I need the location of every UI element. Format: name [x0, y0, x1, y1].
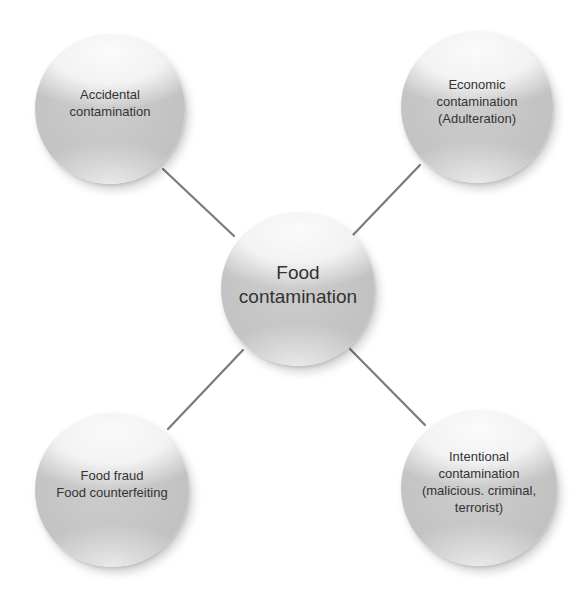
node-label: Economic contamination (Adulteration) — [437, 76, 518, 127]
connector-fraud — [168, 350, 243, 429]
node-food-contamination-center: Food contamination — [221, 212, 375, 366]
connector-intentional — [350, 349, 425, 425]
node-food-fraud: Food fraud Food counterfeiting — [35, 413, 189, 567]
node-intentional-contamination: Intentional contamination (malicious. cr… — [401, 410, 557, 566]
node-label: Accidental contamination — [70, 86, 151, 120]
diagram-canvas: Accidental contamination Economic contam… — [0, 0, 588, 601]
connector-economic — [353, 165, 420, 235]
node-label: Intentional contamination (malicious. cr… — [422, 448, 536, 516]
node-label: Food fraud Food counterfeiting — [56, 467, 167, 501]
center-label: Food contamination — [239, 261, 357, 309]
node-economic-contamination: Economic contamination (Adulteration) — [401, 31, 553, 183]
connector-accidental — [163, 169, 234, 236]
node-accidental-contamination: Accidental contamination — [35, 34, 185, 184]
